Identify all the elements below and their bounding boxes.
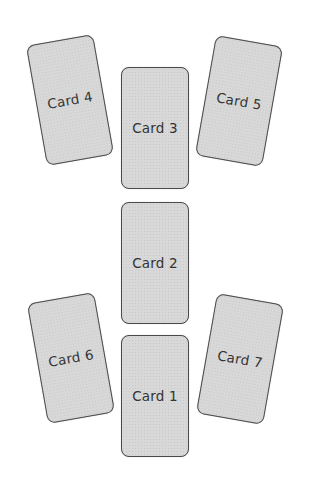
card-5-label: Card 5 bbox=[215, 89, 263, 113]
card-5: Card 5 bbox=[195, 35, 283, 167]
card-3-label: Card 3 bbox=[132, 120, 178, 136]
card-7-label: Card 7 bbox=[216, 347, 264, 371]
card-3: Card 3 bbox=[121, 67, 189, 189]
card-7: Card 7 bbox=[196, 293, 284, 425]
card-1-label: Card 1 bbox=[132, 388, 178, 404]
card-4: Card 4 bbox=[26, 34, 114, 166]
card-2: Card 2 bbox=[121, 202, 189, 324]
card-1: Card 1 bbox=[121, 335, 189, 457]
card-6: Card 6 bbox=[27, 292, 115, 424]
card-6-label: Card 6 bbox=[47, 346, 95, 370]
card-4-label: Card 4 bbox=[46, 88, 94, 112]
card-2-label: Card 2 bbox=[132, 255, 178, 271]
